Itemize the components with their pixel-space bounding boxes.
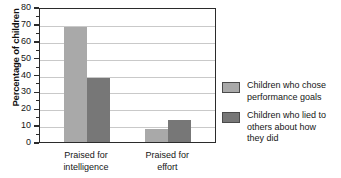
x-axis-label: Praised foreffort bbox=[117, 150, 217, 173]
legend-swatch bbox=[222, 112, 240, 123]
bar bbox=[64, 27, 87, 142]
legend-label: Children who choseperformance goals bbox=[247, 80, 341, 103]
y-axis-tick-label: 30 bbox=[21, 87, 31, 96]
plot-area bbox=[39, 8, 216, 143]
x-axis-label-line: effort bbox=[117, 162, 217, 174]
y-axis-tick-label: 80 bbox=[21, 3, 31, 12]
bar bbox=[87, 78, 110, 142]
legend-item[interactable]: Children who lied toothers about howthey… bbox=[222, 110, 341, 145]
bar-chart: Percentage of children 01020304050607080… bbox=[0, 0, 341, 178]
legend-label-line: Children who chose bbox=[247, 80, 341, 92]
y-axis-tick-label: 40 bbox=[21, 71, 31, 80]
y-axis-tick-label: 20 bbox=[21, 104, 31, 113]
y-axis-tick-label: 60 bbox=[21, 37, 31, 46]
y-axis-ticks: 01020304050607080 bbox=[0, 0, 39, 151]
y-axis-tick-label: 50 bbox=[21, 54, 31, 63]
y-axis-tick-label: 0 bbox=[26, 138, 31, 147]
y-axis-tick-label: 10 bbox=[21, 121, 31, 130]
bar bbox=[145, 129, 168, 143]
legend-swatch bbox=[222, 82, 240, 93]
legend-label-line: others about how bbox=[247, 122, 341, 134]
legend-label-line: they did bbox=[247, 133, 341, 145]
legend-label: Children who lied toothers about howthey… bbox=[247, 110, 341, 145]
y-axis-tick-label: 70 bbox=[21, 20, 31, 29]
legend-label-line: performance goals bbox=[247, 92, 341, 104]
legend-label-line: Children who lied to bbox=[247, 110, 341, 122]
bar bbox=[168, 120, 191, 142]
legend-item[interactable]: Children who choseperformance goals bbox=[222, 80, 341, 103]
x-axis-label-line: Praised for bbox=[117, 150, 217, 162]
chart-legend: Children who choseperformance goalsChild… bbox=[222, 80, 341, 152]
